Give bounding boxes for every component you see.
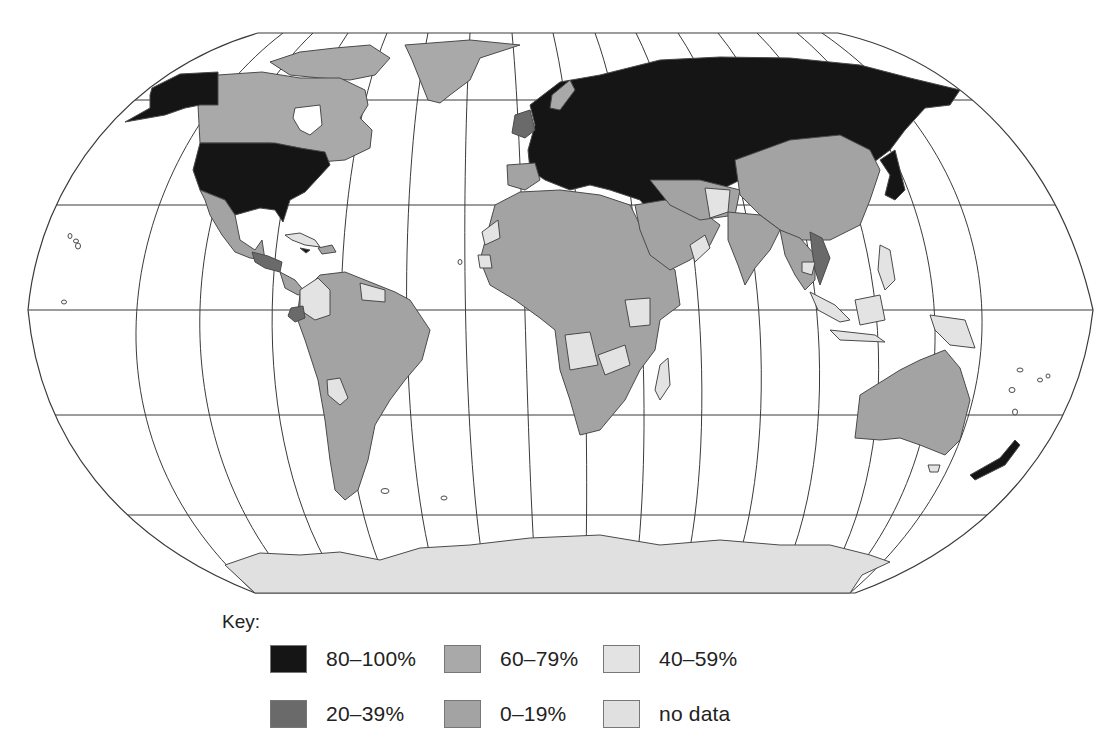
swatch-60-79: [444, 645, 481, 673]
key-item-0-19: 0–19%: [444, 700, 566, 728]
key-item-40-59: 40–59%: [603, 645, 737, 673]
key-item-20-39: 20–39%: [270, 700, 404, 728]
key-label-0-19: 0–19%: [500, 702, 566, 726]
swatch-20-39: [270, 700, 307, 728]
key-item-60-79: 60–79%: [444, 645, 578, 673]
key-label-80-100: 80–100%: [326, 647, 416, 671]
key-label-no-data: no data: [659, 702, 730, 726]
key-label-40-59: 40–59%: [659, 647, 737, 671]
swatch-80-100: [270, 645, 307, 673]
key-item-80-100: 80–100%: [270, 645, 416, 673]
key-title: Key:: [222, 611, 260, 633]
region-tasmania: [928, 465, 940, 472]
swatch-0-19: [444, 700, 481, 728]
swatch-40-59: [603, 645, 640, 673]
region-senegal: [478, 255, 492, 268]
key-label-20-39: 20–39%: [326, 702, 404, 726]
region-kenya-uganda: [625, 298, 650, 327]
key-label-60-79: 60–79%: [500, 647, 578, 671]
world-map: [0, 0, 1109, 600]
key-item-no-data: no data: [603, 700, 730, 728]
swatch-no-data: [603, 700, 640, 728]
